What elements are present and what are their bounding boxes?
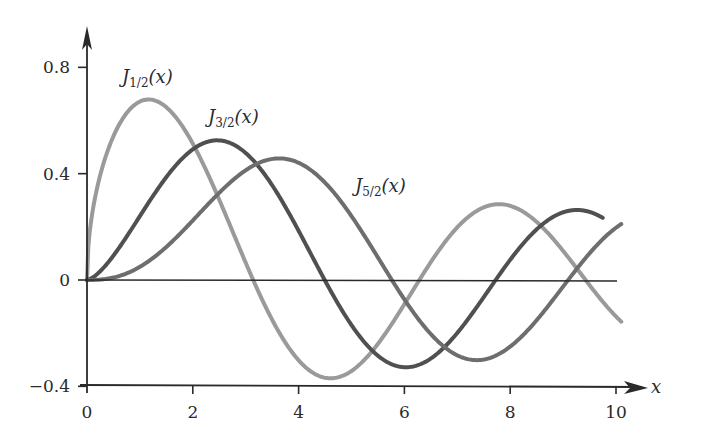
curve-1-2 xyxy=(87,99,621,378)
x-tick-label: 2 xyxy=(187,402,198,422)
x-tick-label: 10 xyxy=(605,402,627,422)
label-j-five-half: J5/2(x) xyxy=(351,175,406,199)
label-j-half: J1/2(x) xyxy=(118,66,173,90)
x-tick-label: 6 xyxy=(399,402,410,422)
x-axis xyxy=(80,385,642,387)
y-ticks: −0.400.40.8 xyxy=(29,57,87,396)
y-tick-label: −0.4 xyxy=(29,376,70,396)
x-tick-label: 4 xyxy=(293,402,304,422)
y-tick-label: 0 xyxy=(59,270,70,290)
y-tick-label: 0.4 xyxy=(43,164,70,184)
x-tick-label: 0 xyxy=(82,402,93,422)
curves-group xyxy=(87,99,621,378)
x-tick-label: 8 xyxy=(505,402,516,422)
x-ticks: 0246810 xyxy=(82,386,627,422)
label-j-three-half: J3/2(x) xyxy=(204,106,259,130)
bessel-chart: 0246810 −0.400.40.8 x J1/2(x) J3/2(x) J5… xyxy=(0,0,701,447)
y-tick-label: 0.8 xyxy=(43,57,70,77)
x-axis-label: x xyxy=(651,376,661,397)
zero-line xyxy=(87,280,617,281)
